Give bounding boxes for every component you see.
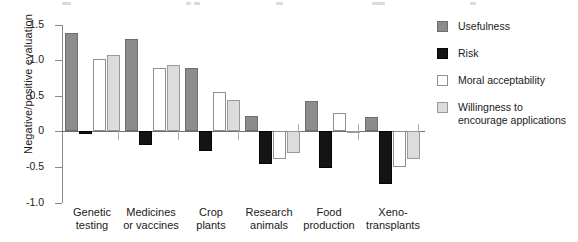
bar <box>333 113 346 131</box>
bar <box>379 131 392 184</box>
bar <box>227 100 240 131</box>
bar <box>305 101 318 131</box>
y-tick--0.5: -0.5 <box>0 167 62 168</box>
x-label-line: production <box>296 219 362 232</box>
bar <box>107 55 120 131</box>
legend-swatch-usefulness <box>437 21 448 32</box>
x-label-research-animals: Research animals <box>238 206 300 231</box>
legend-label-line1: Willingness to <box>458 101 578 114</box>
x-label-line: Crop <box>182 206 240 219</box>
y-tick-label: -0.5 <box>10 161 44 172</box>
legend-swatch-moral-acceptability <box>437 75 448 86</box>
legend-item-risk: Risk <box>437 47 578 63</box>
x-label-line: plants <box>182 219 240 232</box>
y-tick-label: 0 <box>10 125 44 136</box>
legend-item-usefulness: Usefulness <box>437 20 578 36</box>
bar <box>273 131 286 159</box>
y-tick--1.0: -1.0 <box>0 203 62 204</box>
legend-label: Moral acceptability <box>458 74 578 87</box>
x-label-genetic-testing: Genetic testing <box>60 206 124 231</box>
bar <box>65 33 78 131</box>
bar <box>185 68 198 131</box>
x-label-line: transplants <box>358 219 428 232</box>
bar <box>393 131 406 167</box>
legend-item-willingness: Willingness to encourage applications <box>437 101 578 126</box>
bar <box>245 116 258 131</box>
legend-swatch-willingness <box>437 102 448 113</box>
legend-label-line2: encourage applications <box>458 114 578 127</box>
x-label-line: Research <box>238 206 300 219</box>
bar <box>319 131 332 168</box>
bar <box>365 117 378 131</box>
x-label-line: Medicines <box>118 206 184 219</box>
x-label-line: Xeno- <box>358 206 428 219</box>
bar <box>79 131 92 134</box>
x-label-line: testing <box>60 219 124 232</box>
bar <box>153 68 166 131</box>
bar <box>213 92 226 131</box>
legend-label: Risk <box>458 47 578 60</box>
bar <box>259 131 272 164</box>
bar <box>139 131 152 145</box>
y-tick-1.5: 1.5 <box>0 25 62 26</box>
bar <box>125 39 138 131</box>
x-label-food-production: Food production <box>296 206 362 231</box>
x-label-line: or vaccines <box>118 219 184 232</box>
x-label-line: Genetic <box>60 206 124 219</box>
y-tick-1.0: 1.0 <box>0 60 62 61</box>
legend-swatch-risk <box>437 48 448 59</box>
y-tick-label: 1.0 <box>10 54 44 65</box>
legend-item-moral-acceptability: Moral acceptability <box>437 74 578 90</box>
bar <box>93 59 106 131</box>
y-tick-label: -1.0 <box>10 197 44 208</box>
x-label-line: Food <box>296 206 362 219</box>
x-label-crop-plants: Crop plants <box>182 206 240 231</box>
chart-figure: Negative/positive evaluation 1.5 1.0 0.5… <box>0 0 578 242</box>
bar <box>407 131 420 159</box>
legend-label: Usefulness <box>458 20 578 33</box>
bar <box>287 131 300 153</box>
y-tick-label: 0.5 <box>10 90 44 101</box>
y-tick-label: 1.5 <box>10 19 44 30</box>
y-tick-0.5: 0.5 <box>0 96 62 97</box>
y-tick-0: 0 <box>0 131 62 132</box>
bar <box>347 131 360 133</box>
bar <box>199 131 212 151</box>
chart-legend: Usefulness Risk Moral acceptability Will… <box>437 20 578 137</box>
bar <box>167 65 180 131</box>
x-label-xeno-transplants: Xeno- transplants <box>358 206 428 231</box>
x-label-line: animals <box>238 219 300 232</box>
x-label-medicines-or-vaccines: Medicines or vaccines <box>118 206 184 231</box>
